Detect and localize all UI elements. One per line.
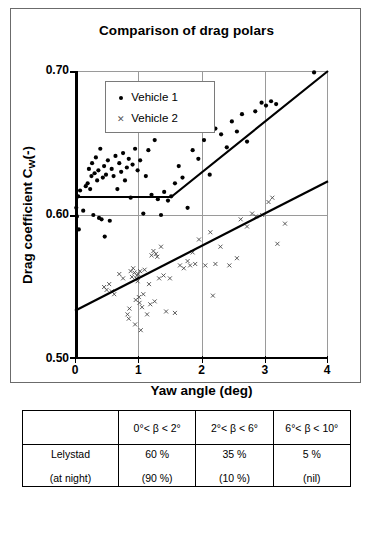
data-point xyxy=(312,70,316,74)
cell-sub-value: (at night) xyxy=(23,472,118,484)
screenshot-root: Comparison of drag polars xyxy=(0,0,372,533)
data-point xyxy=(196,157,200,161)
data-point xyxy=(98,147,102,151)
y-axis-title: Drag coefficient CW(-) xyxy=(20,146,35,284)
cell-main-value: 60 % xyxy=(145,448,169,460)
data-point xyxy=(245,225,249,229)
data-point xyxy=(147,282,151,286)
data-point xyxy=(121,151,125,155)
data-point xyxy=(102,164,106,168)
data-point xyxy=(219,132,223,136)
data-point xyxy=(203,263,207,267)
data-point xyxy=(137,295,141,299)
data-point xyxy=(88,187,92,191)
data-point xyxy=(213,262,217,266)
data-point xyxy=(197,237,201,241)
table-row: Lelystad(at night)60 %(90 %)35 %(10 %)5 … xyxy=(23,445,351,487)
data-point xyxy=(90,161,94,165)
x-tick-3 xyxy=(265,356,266,363)
x-tick-1 xyxy=(138,356,139,363)
data-point xyxy=(117,272,121,276)
data-point xyxy=(153,138,157,142)
data-point xyxy=(91,213,95,217)
data-point xyxy=(127,307,131,311)
data-point xyxy=(193,262,197,266)
data-point xyxy=(253,109,257,113)
data-point xyxy=(159,245,163,249)
data-point xyxy=(110,167,114,171)
data-point xyxy=(173,311,177,315)
data-point xyxy=(133,147,137,151)
data-point xyxy=(130,275,134,279)
data-point xyxy=(138,301,142,305)
data-point xyxy=(89,174,93,178)
data-point xyxy=(125,312,129,316)
data-point xyxy=(145,312,149,316)
data-point xyxy=(96,168,100,172)
y-tick-060 xyxy=(70,215,78,217)
data-point xyxy=(130,163,134,167)
data-point xyxy=(240,112,244,116)
data-point xyxy=(211,294,215,298)
data-point xyxy=(275,242,279,246)
cell-main-value: 5 % xyxy=(303,448,321,460)
data-point xyxy=(127,317,131,321)
data-point xyxy=(177,164,181,168)
data-point xyxy=(112,292,116,296)
data-point xyxy=(117,161,121,165)
data-point xyxy=(162,273,166,277)
data-point xyxy=(225,145,229,149)
data-point xyxy=(162,190,166,194)
data-point xyxy=(208,230,212,234)
data-point xyxy=(274,102,278,106)
chart-legend: Vehicle 1 ✕ Vehicle 2 xyxy=(105,81,215,133)
table-cell-1: 60 %(90 %) xyxy=(119,445,196,487)
cell-main-value: 35 % xyxy=(223,448,247,460)
y-tick-070 xyxy=(70,71,78,73)
x-tick-label-2: 2 xyxy=(187,363,217,377)
data-point xyxy=(235,256,239,260)
legend-label-vehicle-1: Vehicle 1 xyxy=(131,91,178,103)
x-tick-label-0: 0 xyxy=(60,363,90,377)
chart-title: Comparison of drag polars xyxy=(11,23,362,38)
data-point xyxy=(245,139,249,143)
data-point xyxy=(93,171,97,175)
x-tick-label-1: 1 xyxy=(123,363,153,377)
trendline-vehicle-2 xyxy=(75,181,328,311)
data-point xyxy=(188,263,192,267)
data-point xyxy=(182,266,186,270)
cell-main-value: Lelystad xyxy=(51,448,90,460)
data-point xyxy=(127,157,131,161)
data-point xyxy=(136,168,140,172)
cell-sub-value: (10 %) xyxy=(196,472,272,484)
data-point xyxy=(230,119,234,123)
data-point xyxy=(141,211,145,215)
plot-area: 0 1 2 3 4 0.70 0.60 0.50 Vehicle 1 ✕ Veh… xyxy=(75,71,328,359)
data-point xyxy=(108,219,112,223)
x-tick-label-3: 3 xyxy=(250,363,280,377)
data-point xyxy=(191,148,195,152)
table-cell-3: 5 %(nil) xyxy=(273,445,350,487)
x-tick-2 xyxy=(202,356,203,363)
data-point xyxy=(143,268,147,272)
data-point xyxy=(146,148,150,152)
data-point xyxy=(250,212,254,216)
data-point xyxy=(104,173,108,177)
legend-label-vehicle-2: Vehicle 2 xyxy=(131,112,178,124)
data-point xyxy=(202,138,206,142)
data-point xyxy=(283,222,287,226)
data-point xyxy=(185,206,189,210)
data-point xyxy=(101,175,105,179)
legend-item-vehicle-1: Vehicle 1 xyxy=(114,91,178,103)
data-point xyxy=(235,129,239,133)
data-point xyxy=(259,101,263,105)
data-point xyxy=(269,99,273,103)
x-axis-title: Yaw angle (deg) xyxy=(75,383,328,398)
chart-panel: Comparison of drag polars xyxy=(10,8,361,383)
table-cell-2: 35 %(10 %) xyxy=(196,445,273,487)
data-point xyxy=(121,276,125,280)
data-point xyxy=(218,245,222,249)
table-header-row: 0°< β < 2°2°< β < 6°6°< β < 10° xyxy=(23,411,351,445)
data-point xyxy=(94,155,98,159)
data-point xyxy=(139,328,143,332)
